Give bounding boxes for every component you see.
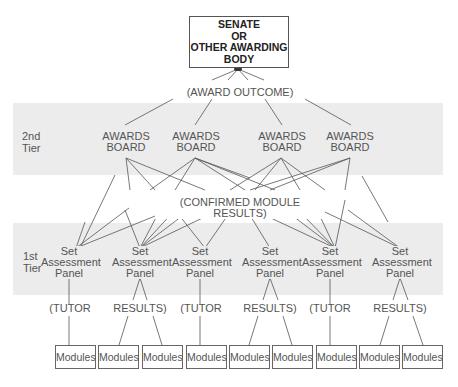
senate-line-3: OTHER AWARDING (190, 42, 288, 54)
assessment-panel-2: Set Assessment Panel (112, 246, 168, 279)
senate-box: SENATE OR OTHER AWARDING BODY (189, 16, 289, 68)
awards-board-4: AWARDS BOARD (320, 131, 380, 153)
senate-line-1: SENATE (190, 19, 288, 31)
module-box-6: Modules (272, 345, 313, 369)
confirmed-module-results-label: (CONFIRMED MODULE RESULTS) (155, 197, 325, 219)
module-box-9: Modules (402, 345, 443, 369)
assessment-panel-4: Set Assessment Panel (242, 246, 298, 279)
awards-board-1: AWARDS BOARD (96, 131, 156, 153)
module-box-2: Modules (98, 345, 139, 369)
awards-board-3: AWARDS BOARD (252, 131, 312, 153)
awards-board-2: AWARDS BOARD (166, 131, 226, 153)
panel-output-5: (TUTOR (309, 303, 351, 314)
assessment-panel-5: Set Assessment Panel (302, 246, 358, 279)
assessment-panel-1: Set Assessment Panel (41, 246, 97, 279)
module-box-1: Modules (55, 345, 96, 369)
award-outcome-label: (AWARD OUTCOME) (180, 87, 300, 98)
tier-1-label: 1st Tier (23, 250, 42, 274)
module-box-4: Modules (186, 345, 227, 369)
assessment-panel-6: Set Assessment Panel (372, 246, 428, 279)
module-box-5: Modules (229, 345, 270, 369)
tier-2-label: 2nd Tier (22, 130, 41, 154)
panel-output-2: RESULTS) (113, 303, 167, 314)
senate-line-4: BODY (190, 54, 288, 66)
panel-output-4: RESULTS) (243, 303, 297, 314)
panel-output-3: (TUTOR (180, 303, 222, 314)
module-box-7: Modules (316, 345, 357, 369)
panel-output-6: RESULTS) (373, 303, 427, 314)
assessment-panel-3: Set Assessment Panel (172, 246, 228, 279)
module-box-3: Modules (142, 345, 183, 369)
module-box-8: Modules (359, 345, 400, 369)
panel-output-1: (TUTOR (49, 303, 91, 314)
